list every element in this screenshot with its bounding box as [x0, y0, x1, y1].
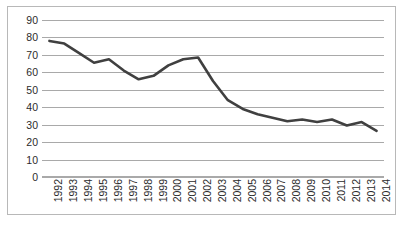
series-line — [49, 41, 376, 131]
x-tick-label: 1992 — [53, 179, 64, 202]
y-tick-label: 50 — [26, 85, 38, 96]
x-tick-label: 1995 — [98, 179, 109, 202]
chart-figure: 9080706050403020100 19921993199419951996… — [7, 6, 396, 215]
x-tick-label: 2004 — [232, 179, 243, 202]
x-tick-label: 2007 — [276, 179, 287, 202]
x-tick-label: 1999 — [158, 179, 169, 202]
x-tick-label: 1996 — [113, 179, 124, 202]
y-tick-label: 80 — [26, 32, 38, 43]
x-tick-label: 2010 — [321, 179, 332, 202]
x-tick-label: 2000 — [172, 179, 183, 202]
x-tick-label: 1998 — [143, 179, 154, 202]
x-tick-label: 2005 — [247, 179, 258, 202]
y-tick-label: 60 — [26, 67, 38, 78]
y-tick-label: 0 — [32, 172, 38, 183]
y-axis-tick-labels: 9080706050403020100 — [8, 7, 42, 216]
x-tick-label: 2006 — [262, 179, 273, 202]
chart-series-layer — [42, 20, 384, 177]
chart-plot-wrapper: 9080706050403020100 19921993199419951996… — [8, 7, 397, 216]
x-axis-tick-labels: 1992199319941995199619971998199920002001… — [42, 179, 384, 216]
x-tick-label: 2003 — [217, 179, 228, 202]
y-tick-label: 10 — [26, 154, 38, 165]
x-tick-label: 2001 — [187, 179, 198, 202]
x-tick-label: 2011 — [336, 179, 347, 202]
chart-plot-area — [42, 20, 384, 177]
x-tick-label: 1994 — [83, 179, 94, 202]
x-tick-label: 1993 — [68, 179, 79, 202]
x-tick-label: 2002 — [202, 179, 213, 202]
x-tick-label: 2009 — [306, 179, 317, 202]
x-tick-label: 2013 — [366, 179, 377, 202]
y-tick-label: 90 — [26, 15, 38, 26]
x-tick-label: 2012 — [351, 179, 362, 202]
y-tick-label: 30 — [26, 119, 38, 130]
y-tick-label: 40 — [26, 102, 38, 113]
y-tick-label: 70 — [26, 50, 38, 61]
x-tick-label: 2014 — [381, 179, 392, 202]
x-tick-label: 2008 — [291, 179, 302, 202]
x-tick-label: 1997 — [128, 179, 139, 202]
gridline — [42, 177, 384, 178]
y-tick-label: 20 — [26, 137, 38, 148]
